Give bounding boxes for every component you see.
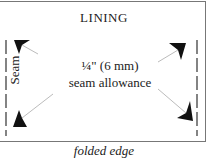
seam-arrows-diagram — [0, 0, 219, 163]
arrowheads — [13, 40, 193, 127]
arrow-bottom-right-icon — [177, 101, 193, 121]
arrow-top-left-icon — [14, 40, 30, 54]
arrow-bottom-left-icon — [13, 110, 27, 127]
arrow-top-right-icon — [169, 43, 186, 60]
